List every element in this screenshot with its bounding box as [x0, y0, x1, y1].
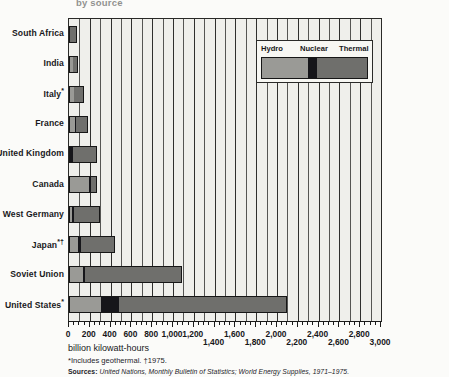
- x-tick: [84, 321, 85, 325]
- source-lead: Sources:: [68, 368, 98, 375]
- x-tick-label: 2,400: [307, 329, 328, 339]
- x-tick: [240, 321, 241, 325]
- stacked-bar: [69, 26, 77, 43]
- chart-footnote: *Includes geothermal. †1975.: [68, 356, 167, 365]
- stacked-bar: [69, 296, 287, 313]
- x-tick: [214, 321, 215, 327]
- category-label: South Africa: [12, 28, 64, 38]
- x-tick: [198, 321, 199, 325]
- category-label: Soviet Union: [10, 269, 64, 279]
- x-tick: [219, 321, 220, 325]
- bar-segment-hydro: [70, 297, 101, 312]
- stacked-bar: [69, 236, 115, 253]
- x-tick-label: 1,200: [182, 329, 203, 339]
- bar-segment-hydro: [70, 267, 83, 282]
- x-tick: [78, 321, 79, 325]
- bar-segment-thermal: [73, 57, 77, 72]
- legend-swatch-thermal: [317, 58, 367, 78]
- x-tick: [162, 321, 163, 325]
- legend-label-nuclear: Nuclear: [300, 44, 339, 53]
- x-tick: [364, 321, 365, 325]
- x-tick: [281, 321, 282, 325]
- x-tick: [323, 321, 324, 325]
- x-tick-label: 1,600: [224, 329, 245, 339]
- x-tick: [344, 321, 345, 325]
- x-tick: [375, 321, 376, 325]
- category-label: Canada: [32, 179, 64, 189]
- x-tick: [260, 321, 261, 325]
- x-tick: [349, 321, 350, 325]
- chart-source: Sources: United Nations, Monthly Bulleti…: [68, 368, 349, 375]
- x-tick-label: 2,000: [266, 329, 287, 339]
- stacked-bar: [69, 176, 97, 193]
- x-tick: [234, 321, 235, 327]
- chart-title: by source: [76, 0, 123, 8]
- bar-segment-thermal: [76, 117, 86, 132]
- source-text: United Nations, Monthly Bulletin of Stat…: [99, 368, 349, 375]
- bar-segment-thermal: [74, 87, 83, 102]
- x-tick: [89, 321, 90, 327]
- category-label: France: [35, 118, 64, 128]
- x-tick: [370, 321, 371, 325]
- stacked-bar: [69, 206, 100, 223]
- bar-row: [69, 206, 381, 223]
- bar-segment-thermal: [119, 297, 287, 312]
- legend-swatch-hydro: [262, 58, 308, 78]
- x-tick: [245, 321, 246, 325]
- bar-segment-thermal: [91, 177, 96, 192]
- x-tick: [141, 321, 142, 325]
- x-tick: [292, 321, 293, 325]
- legend-label-thermal: Thermal: [339, 44, 368, 53]
- x-tick: [182, 321, 183, 325]
- x-tick: [156, 321, 157, 325]
- x-tick: [224, 321, 225, 325]
- stacked-bar: [69, 86, 84, 103]
- bar-row: [69, 146, 381, 163]
- x-tick: [359, 321, 360, 327]
- x-tick: [94, 321, 95, 325]
- bar-row: [69, 86, 381, 103]
- bar-segment-thermal: [73, 147, 96, 162]
- category-label: United States*: [5, 298, 64, 310]
- x-tick-label: 1,800: [245, 337, 266, 347]
- bar-segment-hydro: [70, 237, 78, 252]
- bar-segment-thermal: [70, 27, 76, 42]
- x-tick: [271, 321, 272, 325]
- bar-segment-nuclear: [101, 297, 119, 312]
- x-tick: [99, 321, 100, 325]
- x-tick: [177, 321, 178, 325]
- bar-segment-hydro: [70, 177, 89, 192]
- legend-swatch-bar: [261, 57, 368, 79]
- stacked-bar: [69, 56, 78, 73]
- x-tick-label: 2,800: [349, 329, 370, 339]
- x-tick-label: 400: [103, 329, 117, 339]
- x-tick: [333, 321, 334, 325]
- x-tick: [146, 321, 147, 325]
- x-tick-label: 200: [82, 329, 96, 339]
- x-tick: [312, 321, 313, 325]
- x-tick: [130, 321, 131, 327]
- bar-row: [69, 116, 381, 133]
- x-tick: [125, 321, 126, 325]
- x-tick-label: 2,600: [328, 337, 349, 347]
- x-tick: [172, 321, 173, 327]
- x-tick-label: 0: [66, 329, 71, 339]
- x-tick: [151, 321, 152, 327]
- x-tick: [104, 321, 105, 325]
- category-label: Japan*†: [32, 238, 64, 250]
- legend-labels: Hydro Nuclear Thermal: [261, 44, 368, 55]
- bar-segment-thermal: [74, 207, 100, 222]
- x-tick: [266, 321, 267, 325]
- x-tick: [188, 321, 189, 325]
- category-label: West Germany: [3, 209, 64, 219]
- bar-row: [69, 296, 381, 313]
- x-tick: [255, 321, 256, 327]
- category-label: United Kingdom: [0, 148, 64, 158]
- bar-row: [69, 266, 381, 283]
- x-tick: [120, 321, 121, 325]
- x-axis-title: billion kilowatt-hours: [68, 343, 149, 353]
- x-tick: [203, 321, 204, 325]
- x-tick: [286, 321, 287, 325]
- x-tick: [115, 321, 116, 325]
- x-tick: [307, 321, 308, 325]
